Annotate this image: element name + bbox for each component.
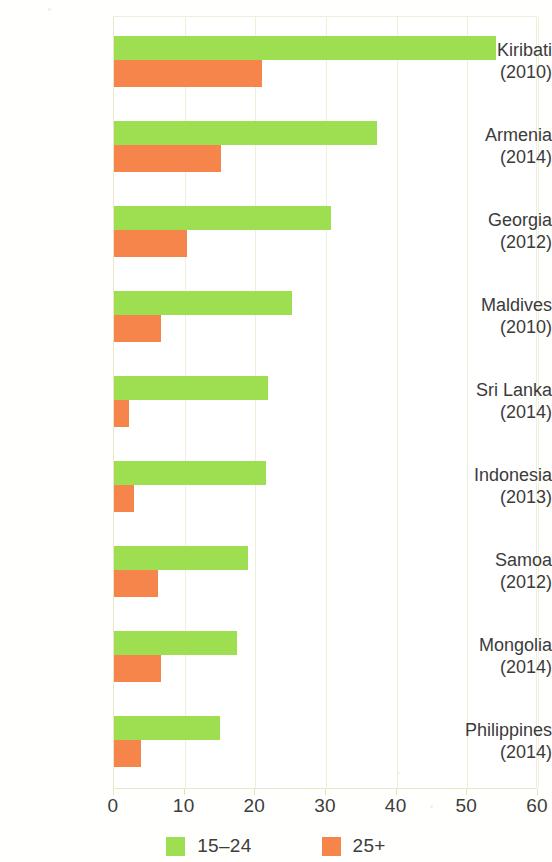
category-name: Maldives [481, 295, 552, 315]
bar-25plus-philippines [114, 740, 141, 767]
paper-speck [398, 772, 400, 774]
x-tick-label-10: 10 [173, 795, 195, 817]
category-name: Indonesia [474, 465, 552, 485]
bar-15-24-philippines [114, 716, 220, 740]
category-label-kiribati: Kiribati(2010) [444, 39, 552, 83]
bar-25plus-georgia [114, 230, 187, 257]
category-year: (2014) [444, 741, 552, 763]
x-tick-label-50: 50 [455, 795, 477, 817]
category-name: Mongolia [479, 635, 552, 655]
category-label-mongolia: Mongolia(2014) [444, 634, 552, 678]
bar-15-24-maldives [114, 291, 292, 315]
x-tick-label-20: 20 [243, 795, 265, 817]
bar-25plus-maldives [114, 315, 161, 342]
category-label-indonesia: Indonesia(2013) [444, 464, 552, 508]
gridline-40 [397, 17, 398, 788]
category-name: Armenia [485, 125, 552, 145]
category-year: (2014) [444, 146, 552, 168]
category-label-maldives: Maldives(2010) [444, 294, 552, 338]
legend-swatch-icon [166, 837, 185, 856]
bar-25plus-kiribati [114, 60, 262, 87]
legend-swatch-icon [322, 837, 341, 856]
chart-figure: 0102030405060 Kiribati(2010)Armenia(2014… [0, 0, 552, 862]
category-name: Philippines [465, 720, 552, 740]
bar-15-24-mongolia [114, 631, 237, 655]
category-year: (2010) [444, 316, 552, 338]
category-name: Kiribati [497, 40, 552, 60]
x-tick-label-30: 30 [314, 795, 336, 817]
chart-legend: 15–2425+ [0, 834, 552, 858]
category-name: Samoa [495, 550, 552, 570]
bar-25plus-samoa [114, 570, 158, 597]
legend-label: 15–24 [197, 835, 251, 857]
paper-speck [48, 8, 51, 11]
category-label-georgia: Georgia(2012) [444, 209, 552, 253]
category-year: (2013) [444, 486, 552, 508]
category-name: Georgia [488, 210, 552, 230]
legend-label: 25+ [353, 835, 386, 857]
category-label-armenia: Armenia(2014) [444, 124, 552, 168]
bar-15-24-samoa [114, 546, 248, 570]
bar-15-24-indonesia [114, 461, 266, 485]
bar-25plus-indonesia [114, 485, 134, 512]
category-year: (2014) [444, 656, 552, 678]
category-year: (2014) [444, 401, 552, 423]
bar-25plus-mongolia [114, 655, 161, 682]
category-year: (2010) [444, 61, 552, 83]
bar-25plus-sri-lanka [114, 400, 129, 427]
category-name: Sri Lanka [476, 380, 552, 400]
bar-15-24-georgia [114, 206, 331, 230]
category-year: (2012) [444, 571, 552, 593]
x-tick-label-60: 60 [526, 795, 548, 817]
category-label-sri-lanka: Sri Lanka(2014) [444, 379, 552, 423]
legend-item-15-24[interactable]: 15–24 [166, 835, 251, 857]
category-label-philippines: Philippines(2014) [444, 719, 552, 763]
category-year: (2012) [444, 231, 552, 253]
bar-15-24-sri-lanka [114, 376, 268, 400]
x-tick-label-0: 0 [108, 795, 119, 817]
x-tick-label-40: 40 [385, 795, 407, 817]
category-label-samoa: Samoa(2012) [444, 549, 552, 593]
bar-25plus-armenia [114, 145, 221, 172]
legend-item-25plus[interactable]: 25+ [322, 835, 386, 857]
paper-speck [430, 805, 433, 808]
bar-15-24-armenia [114, 121, 377, 145]
bar-15-24-kiribati [114, 36, 496, 60]
